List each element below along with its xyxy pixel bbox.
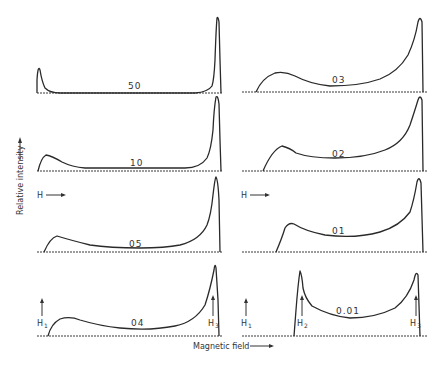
panel-04: 04 H 1 H 3 [37, 265, 222, 336]
svg-text:1: 1 [44, 322, 48, 329]
svg-text:1: 1 [248, 322, 252, 329]
svg-text:H: H [241, 319, 247, 328]
panel-label: 10 [130, 158, 143, 168]
panel-label: 05 [129, 239, 142, 249]
h1-marker: H 1 [241, 298, 252, 329]
panel-label: 01 [332, 226, 345, 236]
panel-0-01: 0.01 H 1 H 2 H 3 [241, 271, 427, 336]
panel-label: 04 [131, 318, 144, 328]
svg-text:2: 2 [304, 322, 308, 329]
panel-10: 10 [37, 97, 222, 171]
svg-text:H: H [297, 319, 303, 328]
panel-02: 02 [242, 97, 427, 171]
panel-label: 0.01 [336, 306, 360, 316]
panel-label: 50 [128, 81, 141, 91]
spectrum-curve [276, 179, 423, 252]
h-direction-left: H [37, 191, 66, 200]
svg-text:H: H [37, 319, 43, 328]
y-axis-label: Relative intensity [16, 137, 25, 215]
svg-text:Magnetic field: Magnetic field [193, 342, 249, 351]
spectrum-curve [294, 271, 420, 336]
panel-label: 03 [332, 75, 345, 85]
panel-03: 03 [242, 19, 427, 93]
x-axis-label: Magnetic field [193, 342, 274, 351]
h3-marker: H 3 [208, 295, 219, 329]
svg-text:H: H [410, 319, 416, 328]
svg-text:H: H [241, 191, 247, 200]
panel-01: 01 [242, 179, 427, 252]
spectrum-curve [263, 97, 423, 171]
panel-50: 50 [37, 18, 222, 94]
panel-05: 05 [37, 177, 222, 252]
h1-marker: H 1 [37, 298, 48, 329]
svg-text:3: 3 [215, 322, 219, 329]
h2-marker: H 2 [297, 295, 308, 329]
svg-text:3: 3 [417, 322, 421, 329]
svg-text:H: H [37, 191, 43, 200]
h-direction-right: H [241, 191, 270, 200]
panel-label: 02 [332, 149, 345, 159]
svg-text:H: H [208, 319, 214, 328]
figure-canvas: 50 10 05 04 H 1 H 3 [0, 0, 441, 365]
